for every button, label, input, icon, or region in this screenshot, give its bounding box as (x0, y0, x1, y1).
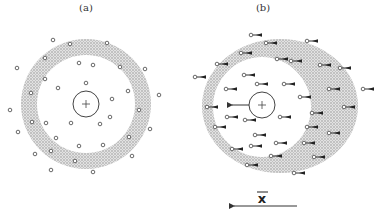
particle (49, 168, 53, 172)
particle (69, 121, 73, 125)
particle-with-velocity (278, 115, 291, 119)
particle (143, 67, 147, 71)
particle (77, 61, 81, 65)
particle-with-velocity (193, 75, 206, 79)
particle (91, 63, 95, 67)
particle-with-velocity (213, 125, 226, 129)
arrow-left-icon (285, 115, 291, 119)
particle (51, 38, 55, 42)
particle (43, 56, 47, 60)
arrow-left-icon (262, 82, 268, 86)
particle-with-velocity (255, 82, 268, 86)
particle-with-velocity (305, 39, 318, 43)
arrow-left-icon (231, 87, 237, 91)
particle (118, 65, 122, 69)
arrow-left-icon (250, 118, 256, 122)
arrow-left-icon (256, 144, 262, 148)
particle (16, 130, 20, 134)
panel-a-label: (a) (79, 2, 93, 13)
arrow-left-icon (368, 87, 374, 91)
particle (73, 159, 77, 163)
particle (148, 127, 152, 131)
particle (91, 170, 95, 174)
arrow-left-icon (232, 115, 238, 119)
particle-with-velocity (253, 133, 266, 137)
particle-with-velocity (243, 118, 256, 122)
particle (43, 77, 47, 81)
arrow-left-icon (281, 141, 287, 145)
particle-with-velocity (224, 87, 237, 91)
ion-screening-diagram: (a) (b) x (0, 0, 381, 211)
particle-with-velocity (274, 141, 287, 145)
particle-with-velocity (242, 73, 255, 77)
particle (15, 66, 19, 70)
particle (84, 81, 88, 85)
particle-with-velocity (282, 82, 295, 86)
particle (127, 135, 131, 139)
particle (33, 152, 37, 156)
arrow-left-icon (260, 133, 266, 137)
particle-with-velocity (249, 144, 262, 148)
particle-with-velocity (361, 87, 374, 91)
particle (77, 144, 81, 148)
particle (8, 108, 12, 112)
particle (30, 120, 34, 124)
plus-icon (82, 100, 90, 108)
particle (44, 121, 48, 125)
arrow-left-icon (299, 171, 305, 175)
velocity-symbol: x (258, 191, 267, 206)
arrow-left-icon (345, 66, 351, 70)
particle (54, 136, 58, 140)
panel-a: (a) (8, 2, 161, 174)
particle-with-velocity (249, 33, 262, 37)
particle-with-velocity (292, 171, 305, 175)
particle (101, 143, 105, 147)
particle (56, 86, 60, 90)
particle (108, 115, 112, 119)
arrow-left-icon (249, 73, 255, 77)
particle (49, 149, 53, 153)
arrow-left-icon (237, 147, 243, 151)
particle (126, 89, 130, 93)
panel-b-label: (b) (256, 2, 270, 13)
particle (110, 97, 114, 101)
particle (29, 91, 33, 95)
panel-b: (b) (193, 2, 374, 175)
arrow-left-icon (312, 39, 318, 43)
particle (157, 93, 161, 97)
arrow-left-icon (305, 95, 311, 99)
particle (130, 154, 134, 158)
arrow-left-icon (220, 125, 226, 129)
particle (98, 122, 102, 126)
arrow-left-icon (289, 82, 295, 86)
particle-with-velocity (298, 95, 311, 99)
velocity-indicator: x (234, 191, 297, 206)
particle (105, 41, 109, 45)
arrow-left-icon (256, 33, 262, 37)
arrow-left-icon (200, 75, 206, 79)
particle (137, 108, 141, 112)
particle-with-velocity (225, 115, 238, 119)
particle (68, 42, 72, 46)
